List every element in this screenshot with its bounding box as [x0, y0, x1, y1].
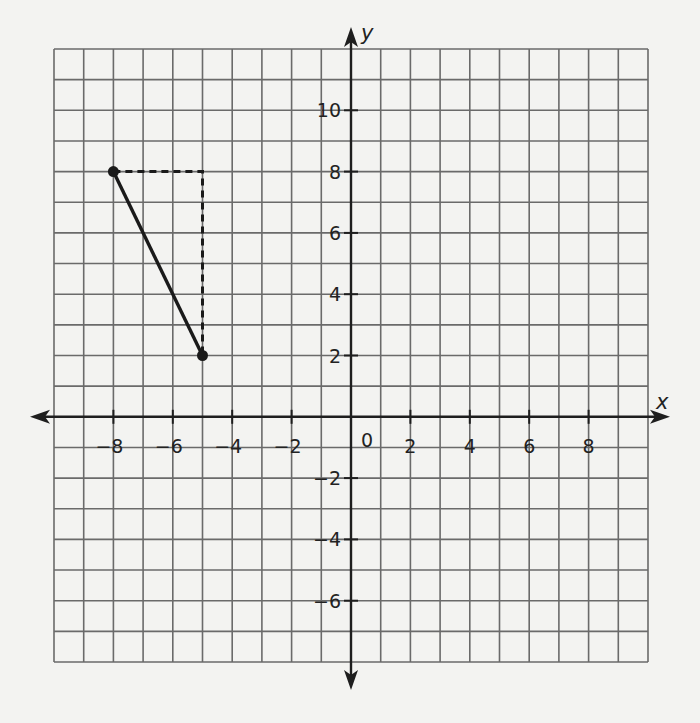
point-marker	[108, 166, 119, 177]
y-axis-label: y	[360, 21, 374, 45]
y-tick-label: 10	[317, 99, 341, 121]
y-tick-label: 6	[329, 222, 341, 244]
x-tick-label: 6	[523, 435, 535, 457]
axes	[30, 27, 670, 690]
y-tick-label: −4	[313, 528, 341, 550]
x-tick-label: 4	[464, 435, 476, 457]
x-tick-labels: −8−6−4−22468	[95, 435, 594, 457]
y-tick-label: −6	[313, 590, 341, 612]
y-tick-label: 4	[329, 283, 341, 305]
coordinate-plane: −8−6−4−22468 108642−2−4−6 0 x y	[0, 0, 700, 723]
y-tick-label: 8	[329, 161, 341, 183]
origin-label: 0	[361, 429, 373, 451]
y-tick-label: 2	[329, 345, 341, 367]
x-tick-label: 2	[404, 435, 416, 457]
x-axis-label: x	[655, 390, 669, 414]
point-marker	[197, 350, 208, 361]
x-tick-label: 8	[583, 435, 595, 457]
x-tick-label: −6	[155, 435, 183, 457]
x-tick-label: −8	[95, 435, 123, 457]
x-tick-label: −2	[274, 435, 302, 457]
x-tick-label: −4	[214, 435, 242, 457]
y-tick-label: −2	[313, 467, 341, 489]
